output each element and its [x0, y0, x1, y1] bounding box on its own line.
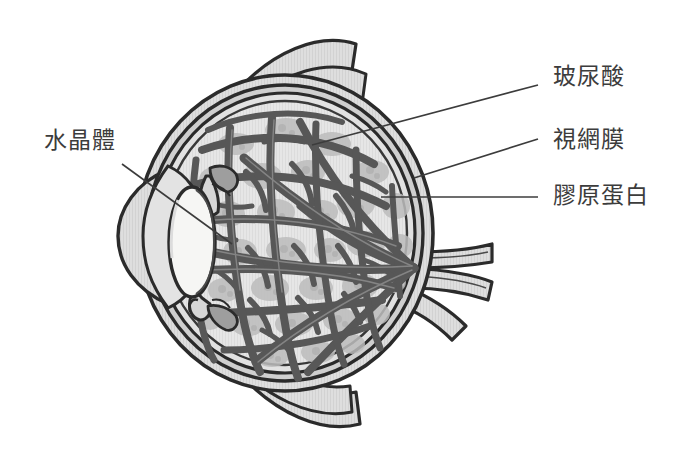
label-hyaluronic-acid: 玻尿酸	[553, 65, 625, 88]
eye-anatomy-diagram: 水晶體 玻尿酸 視網膜 膠原蛋白	[0, 0, 679, 468]
leader-line-retina	[414, 139, 538, 178]
label-lens: 水晶體	[44, 129, 116, 152]
label-collagen: 膠原蛋白	[553, 184, 649, 207]
label-retina: 視網膜	[553, 128, 625, 151]
